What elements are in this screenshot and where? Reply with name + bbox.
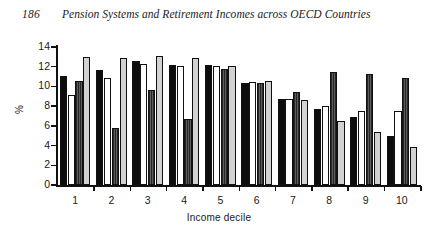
bar — [156, 56, 163, 185]
x-axis-title: Income decile — [0, 212, 438, 223]
x-tick-label: 8 — [309, 194, 349, 206]
bar — [358, 111, 365, 185]
bar — [293, 92, 300, 185]
bar — [228, 66, 235, 185]
bar — [184, 119, 191, 185]
x-tick-label: 2 — [91, 194, 131, 206]
bar — [132, 61, 139, 185]
y-tick-label: 14 — [16, 41, 50, 51]
bar — [350, 117, 357, 185]
bar — [205, 65, 212, 185]
plot-area — [57, 47, 420, 185]
bar — [314, 109, 321, 185]
bar-chart: 02468101214 12345678910 Income decile % — [0, 36, 438, 244]
page-number: 186 — [22, 8, 40, 20]
bar — [213, 66, 220, 185]
bar — [278, 99, 285, 185]
x-tick — [420, 186, 422, 191]
bar — [322, 106, 329, 185]
x-tick — [130, 186, 132, 191]
bar — [112, 128, 119, 185]
x-tick-label: 1 — [55, 194, 95, 206]
running-head: 186 Pension Systems and Retirement Incom… — [0, 8, 438, 26]
bar — [192, 58, 199, 185]
bar — [140, 64, 147, 185]
page: 186 Pension Systems and Retirement Incom… — [0, 0, 438, 244]
bar — [104, 78, 111, 185]
y-tick-label: 6 — [16, 120, 50, 130]
y-tick-label: 12 — [16, 61, 50, 71]
x-tick-label: 6 — [237, 194, 277, 206]
bar — [285, 99, 292, 185]
y-tick-label: 2 — [16, 159, 50, 169]
y-tick-label: 4 — [16, 140, 50, 150]
x-tick-label: 5 — [200, 194, 240, 206]
bar — [394, 111, 401, 185]
bar — [387, 136, 394, 185]
x-tick — [202, 186, 204, 191]
x-tick-label: 9 — [346, 194, 386, 206]
y-tick-label: 0 — [16, 179, 50, 189]
y-tick-label: 10 — [16, 80, 50, 90]
x-tick — [239, 186, 241, 191]
bar — [68, 95, 75, 185]
x-tick-label: 4 — [164, 194, 204, 206]
bar — [366, 74, 373, 185]
bar — [177, 66, 184, 185]
bar — [221, 69, 228, 185]
bar — [75, 81, 82, 185]
bar — [402, 78, 409, 185]
bar — [148, 90, 155, 185]
x-tick-label: 3 — [128, 194, 168, 206]
x-tick — [347, 186, 349, 191]
bar — [120, 58, 127, 185]
bar — [337, 121, 344, 185]
x-tick — [384, 186, 386, 191]
bar — [96, 70, 103, 185]
bar — [241, 83, 248, 186]
y-axis-title: % — [14, 105, 25, 114]
running-head-title: Pension Systems and Retirement Incomes a… — [62, 8, 370, 20]
bar — [301, 100, 308, 185]
x-tick — [93, 186, 95, 191]
bar — [257, 83, 264, 186]
bar — [60, 76, 67, 185]
x-tick-label: 10 — [382, 194, 422, 206]
x-tick — [166, 186, 168, 191]
bar — [330, 72, 337, 185]
x-tick-label: 7 — [273, 194, 313, 206]
bar — [249, 82, 256, 186]
bar — [374, 132, 381, 185]
x-tick — [311, 186, 313, 191]
x-tick — [275, 186, 277, 191]
bar — [169, 65, 176, 185]
bar — [410, 147, 417, 185]
bar — [265, 81, 272, 185]
bar — [83, 57, 90, 185]
